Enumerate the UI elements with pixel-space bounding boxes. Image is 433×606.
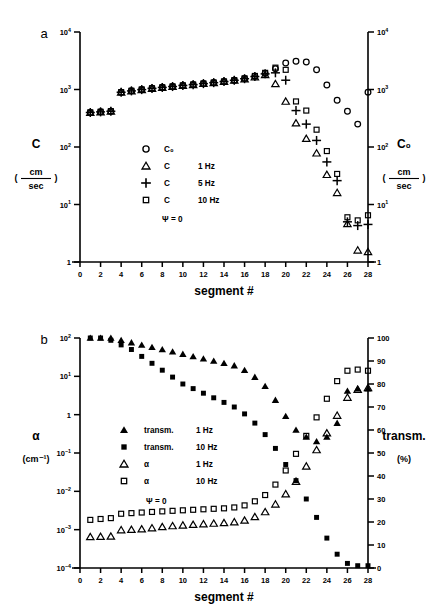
svg-text:sec: sec xyxy=(28,181,43,191)
panel-a-x-tick-label: 24 xyxy=(323,270,332,279)
data-point-triangle-open xyxy=(117,526,124,532)
panel-a-letter: a xyxy=(40,26,48,41)
data-point-square-filled xyxy=(121,444,126,449)
panel-b-left-axis-unit: (cm⁻¹) xyxy=(23,454,50,464)
data-point-square-filled xyxy=(304,497,309,502)
legend-freq: 10 Hz xyxy=(198,196,219,205)
data-point-triangle-open xyxy=(169,522,176,528)
data-point-triangle-filled xyxy=(200,355,207,361)
data-point-square-filled xyxy=(242,411,247,416)
data-point-triangle-open xyxy=(159,523,166,529)
panel-b-x-tick-label: 20 xyxy=(282,576,290,585)
panel-a-left-axis-title: C xyxy=(32,137,41,151)
data-point-triangle-filled xyxy=(344,387,351,393)
data-point-triangle-filled xyxy=(210,357,217,363)
series-c-1-hz xyxy=(87,71,372,254)
data-point-triangle-open xyxy=(292,120,299,126)
data-point-square-open xyxy=(201,507,206,512)
data-point-square-filled xyxy=(170,375,175,380)
panel-b-right-tick-label: 50 xyxy=(377,449,385,458)
panel-a-left-tick-label: 104 xyxy=(60,27,71,38)
legend-freq: 1 Hz xyxy=(198,162,215,171)
data-point-square-filled xyxy=(222,400,227,405)
data-point-circle-open xyxy=(355,121,361,127)
panel-b-left-tick-label: 102 xyxy=(60,333,71,344)
panel-a: a104104103103102102101101110246810121416… xyxy=(0,0,433,303)
panel-b-right-tick-label: 20 xyxy=(377,518,385,527)
panel-b-right-tick-label: 100 xyxy=(377,334,390,343)
panel-b-right-tick-label: 40 xyxy=(377,472,385,481)
data-point-square-filled xyxy=(263,432,268,437)
data-point-triangle-open xyxy=(189,521,196,527)
data-point-triangle-open xyxy=(313,150,320,156)
figure-container: a104104103103102102101101110246810121416… xyxy=(0,0,433,606)
data-point-square-open xyxy=(98,517,103,522)
data-point-triangle-open xyxy=(344,394,351,400)
data-point-triangle-open xyxy=(107,533,114,539)
legend-freq: 10 Hz xyxy=(196,477,217,486)
panel-b-left-tick-label: 10−2 xyxy=(57,486,71,497)
data-point-triangle-filled xyxy=(261,383,268,389)
panel-a-right-tick-label: 103 xyxy=(377,84,388,95)
data-point-square-open xyxy=(263,493,268,498)
series--1-hz xyxy=(87,384,372,539)
legend-label: transm. xyxy=(144,426,174,435)
data-point-triangle-open xyxy=(282,491,289,497)
legend-label: α xyxy=(144,477,149,486)
panel-b-left-tick-label: 10−1 xyxy=(57,448,71,459)
svg-text:(: ( xyxy=(15,173,18,183)
panel-b-x-tick-label: 2 xyxy=(98,576,102,585)
panel-b-left-axis-title: α xyxy=(32,429,40,443)
panel-b-x-tick-label: 22 xyxy=(302,576,310,585)
data-point-square-open xyxy=(242,503,247,508)
data-point-triangle-open xyxy=(241,517,248,523)
data-point-triangle-filled xyxy=(272,397,279,403)
legend-note: Ψ = 0 xyxy=(162,215,183,224)
legend-label: C xyxy=(164,196,170,205)
panel-a-right-tick-label: 1 xyxy=(377,258,381,267)
panel-a-legend: C₀C1 HzC5 HzC10 HzΨ = 0 xyxy=(141,145,219,224)
data-point-square-open xyxy=(345,368,350,373)
data-point-triangle-filled xyxy=(159,346,166,352)
panel-b-x-tick-label: 24 xyxy=(323,576,332,585)
data-point-square-filled xyxy=(191,386,196,391)
data-point-triangle-open xyxy=(120,460,128,467)
data-point-triangle-filled xyxy=(292,426,299,432)
data-point-square-open xyxy=(273,482,278,487)
data-point-square-filled xyxy=(232,405,237,410)
data-point-square-filled xyxy=(98,336,103,341)
data-point-square-open xyxy=(283,67,288,72)
data-point-triangle-open xyxy=(303,135,310,141)
panel-a-right-tick-label: 101 xyxy=(377,199,388,210)
panel-a-x-tick-label: 22 xyxy=(302,270,310,279)
data-point-circle-open xyxy=(314,67,320,73)
panel-a-x-tick-label: 14 xyxy=(220,270,229,279)
data-point-plus xyxy=(302,120,311,129)
panel-b-right-tick-label: 80 xyxy=(377,380,385,389)
panel-b-left-tick-label: 10−4 xyxy=(57,563,71,574)
data-point-triangle-open xyxy=(220,519,227,525)
data-point-square-filled xyxy=(335,552,340,557)
data-point-triangle-open xyxy=(333,189,340,195)
data-point-square-filled xyxy=(366,563,371,568)
data-point-square-open xyxy=(314,415,319,420)
data-point-square-open xyxy=(324,149,329,154)
data-point-triangle-filled xyxy=(120,426,128,433)
data-point-square-filled xyxy=(160,368,165,373)
data-point-triangle-filled xyxy=(313,438,320,444)
data-point-triangle-filled xyxy=(251,374,258,380)
data-point-square-filled xyxy=(180,382,185,387)
data-point-square-filled xyxy=(314,515,319,520)
legend-freq: 5 Hz xyxy=(198,179,215,188)
svg-text:(: ( xyxy=(383,173,386,183)
panel-a-x-axis-title: segment # xyxy=(194,284,254,298)
panel-b-x-tick-label: 8 xyxy=(160,576,164,585)
data-point-square-open xyxy=(160,509,165,514)
data-point-triangle-open xyxy=(251,513,258,519)
panel-a-x-tick-label: 0 xyxy=(78,270,82,279)
panel-a-x-tick-label: 2 xyxy=(98,270,102,279)
data-point-square-open xyxy=(335,379,340,384)
data-point-square-filled xyxy=(324,536,329,541)
panel-b-right-tick-label: 30 xyxy=(377,495,385,504)
data-point-circle-open xyxy=(283,60,289,66)
